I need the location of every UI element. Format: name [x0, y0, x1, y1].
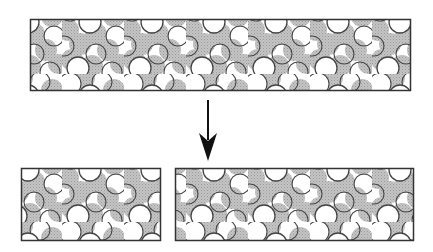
original-block	[30, 19, 411, 91]
split-block-right	[175, 168, 414, 241]
down-arrow-icon	[199, 100, 217, 161]
split-block-left	[21, 168, 161, 241]
diagram-canvas	[0, 0, 433, 252]
